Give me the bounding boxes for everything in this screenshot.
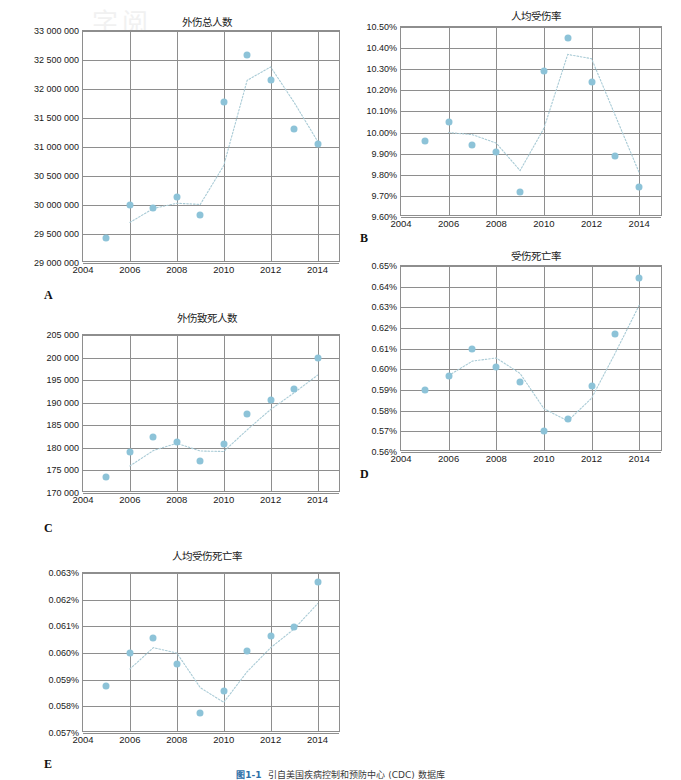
data-point: [150, 205, 157, 212]
plot-area-a: 29 000 00029 500 00030 000 00030 500 000…: [82, 30, 340, 262]
y-axis-tick-label: 0.60%: [371, 364, 397, 374]
figure-caption: 图1-1 引自美国疾病控制和预防中心 (CDC) 数据库: [0, 768, 681, 780]
y-axis-tick-label: 180 000: [46, 443, 79, 453]
data-point: [612, 152, 619, 159]
y-axis-tick-label: 32 000 000: [34, 84, 79, 94]
trendline-c: [83, 335, 341, 493]
gridline-vertical: [318, 573, 319, 731]
data-point: [445, 119, 452, 126]
data-point: [244, 648, 251, 655]
data-point: [421, 387, 428, 394]
chart-title-c: 外伤致死人数: [62, 310, 352, 325]
y-axis-tick-label: 0.64%: [371, 282, 397, 292]
gridline-horizontal: [83, 600, 339, 601]
gridline-vertical: [224, 335, 225, 491]
gridline-vertical: [271, 335, 272, 491]
data-point: [197, 212, 204, 219]
trendline-b: [401, 27, 663, 217]
gridline-horizontal: [401, 307, 661, 308]
x-axis-tick-label: 2010: [213, 734, 234, 745]
gridline-vertical: [177, 335, 178, 491]
panel-letter-a: A: [44, 288, 53, 303]
gridline-horizontal: [83, 403, 339, 404]
gridline-vertical: [130, 335, 131, 491]
data-point: [173, 661, 180, 668]
gridline-horizontal: [83, 205, 339, 206]
y-axis-tick-label: 9.70%: [371, 191, 397, 201]
y-axis-tick-label: 190 000: [46, 398, 79, 408]
data-point: [540, 428, 547, 435]
y-axis-tick-label: 32 500 000: [34, 55, 79, 65]
data-point: [564, 34, 571, 41]
y-axis-tick-label: 0.58%: [371, 406, 397, 416]
gridline-horizontal: [401, 369, 661, 370]
gridline-horizontal: [83, 176, 339, 177]
y-axis-tick-label: 0.57%: [371, 426, 397, 436]
gridline-horizontal: [83, 380, 339, 381]
data-point: [126, 449, 133, 456]
data-point: [150, 434, 157, 441]
data-point: [197, 457, 204, 464]
gridline-horizontal: [83, 118, 339, 119]
x-axis-tick-label: 2008: [166, 264, 187, 275]
chart-title-d: 受伤死亡率: [398, 248, 673, 263]
gridline-horizontal: [401, 133, 661, 134]
x-axis-tick-label: 2004: [390, 218, 411, 229]
data-point: [291, 386, 298, 393]
gridline-horizontal: [83, 89, 339, 90]
data-point: [588, 78, 595, 85]
chart-title-a: 外伤总人数: [62, 14, 352, 29]
y-axis-tick-label: 9.90%: [371, 149, 397, 159]
data-point: [173, 194, 180, 201]
y-axis-tick-label: 0.061%: [48, 621, 79, 631]
y-axis-tick-label: 10.20%: [366, 85, 397, 95]
data-point: [517, 378, 524, 385]
gridline-horizontal: [83, 147, 339, 148]
x-axis-tick-label: 2008: [486, 218, 507, 229]
x-axis-tick-label: 2006: [119, 494, 140, 505]
gridline-horizontal: [83, 358, 339, 359]
data-point: [150, 635, 157, 642]
data-point: [421, 138, 428, 145]
x-axis-tick-label: 2010: [533, 453, 554, 464]
data-point: [126, 650, 133, 657]
x-axis-tick-label: 2014: [629, 453, 650, 464]
data-point: [244, 410, 251, 417]
x-axis-tick-label: 2006: [438, 453, 459, 464]
gridline-vertical: [639, 266, 640, 450]
gridline-horizontal: [83, 626, 339, 627]
x-axis-tick-label: 2004: [72, 494, 93, 505]
gridline-vertical: [592, 27, 593, 215]
data-point: [493, 148, 500, 155]
chart-title-b: 人均受伤率: [398, 8, 673, 23]
gridline-horizontal: [401, 90, 661, 91]
data-point: [636, 275, 643, 282]
gridline-vertical: [496, 266, 497, 450]
gridline-horizontal: [401, 175, 661, 176]
x-axis-tick-label: 2004: [72, 734, 93, 745]
gridline-horizontal: [401, 27, 661, 28]
data-point: [291, 623, 298, 630]
gridline-vertical: [130, 31, 131, 261]
trendline-d: [401, 266, 663, 452]
data-point: [517, 188, 524, 195]
y-axis-tick-label: 0.62%: [371, 323, 397, 333]
figure-number: 图1-1: [236, 770, 261, 780]
data-point: [469, 142, 476, 149]
data-point: [540, 68, 547, 75]
gridline-horizontal: [83, 448, 339, 449]
x-axis-tick-label: 2010: [213, 264, 234, 275]
x-axis-tick-label: 2014: [307, 734, 328, 745]
data-point: [588, 382, 595, 389]
x-axis-tick-label: 2004: [390, 453, 411, 464]
y-axis-tick-label: 10.50%: [366, 22, 397, 32]
data-point: [103, 235, 110, 242]
y-axis-tick-label: 200 000: [46, 353, 79, 363]
gridline-horizontal: [401, 48, 661, 49]
gridline-vertical: [177, 31, 178, 261]
data-point: [220, 99, 227, 106]
x-axis-tick-label: 2012: [260, 264, 281, 275]
x-axis-tick-label: 2006: [438, 218, 459, 229]
y-axis-tick-label: 0.060%: [48, 648, 79, 658]
gridline-horizontal: [401, 196, 661, 197]
